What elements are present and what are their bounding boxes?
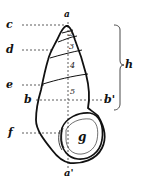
- label-c: c: [6, 19, 13, 30]
- label-height-h: h: [125, 59, 133, 70]
- whorl-number-2: 2: [68, 30, 73, 38]
- reference-lines: [22, 22, 108, 168]
- label-f: f: [8, 127, 13, 138]
- height-bracket: [114, 25, 124, 110]
- label-base-a-prime: a': [64, 168, 74, 178]
- whorl-number-4: 4: [70, 62, 75, 70]
- label-b-prime: b': [104, 94, 115, 105]
- whorl-number-3: 3: [69, 43, 74, 51]
- label-e: e: [6, 79, 13, 90]
- label-b: b: [24, 94, 32, 105]
- label-d: d: [6, 44, 14, 55]
- label-apex: a: [64, 10, 70, 19]
- label-aperture-g: g: [78, 131, 86, 143]
- whorl-number-5: 5: [70, 88, 75, 96]
